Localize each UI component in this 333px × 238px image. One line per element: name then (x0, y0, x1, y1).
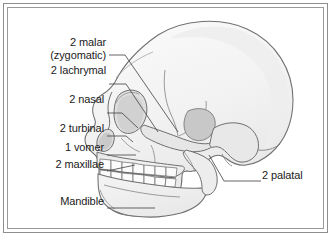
label-vomer-line1: 1 vomer (2, 141, 104, 154)
label-lachrymal-line1: 2 lachrymal (2, 64, 106, 77)
label-malar-line2: (zygomatic) (2, 49, 106, 62)
mastoid-region (210, 123, 259, 162)
label-malar: 2 malar (zygomatic) (2, 36, 106, 61)
label-turbinal-line1: 2 turbinal (2, 122, 104, 135)
label-maxillae: 2 maxillae (2, 158, 104, 171)
label-palatal-line1: 2 palatal (262, 169, 303, 182)
anatomy-figure: 2 malar (zygomatic) 2 lachrymal 2 nasal … (0, 0, 333, 238)
temporal-fossa (184, 109, 215, 141)
label-mandible-line1: Mandible (2, 195, 104, 208)
label-palatal: 2 palatal (262, 169, 303, 182)
label-nasal-line1: 2 nasal (2, 93, 104, 106)
label-nasal: 2 nasal (2, 93, 104, 106)
label-vomer: 1 vomer (2, 141, 104, 154)
label-turbinal: 2 turbinal (2, 122, 104, 135)
label-lachrymal: 2 lachrymal (2, 64, 106, 77)
label-malar-line1: 2 malar (2, 36, 106, 49)
skull-body (85, 21, 293, 217)
label-maxillae-line1: 2 maxillae (2, 158, 104, 171)
label-mandible: Mandible (2, 195, 104, 208)
